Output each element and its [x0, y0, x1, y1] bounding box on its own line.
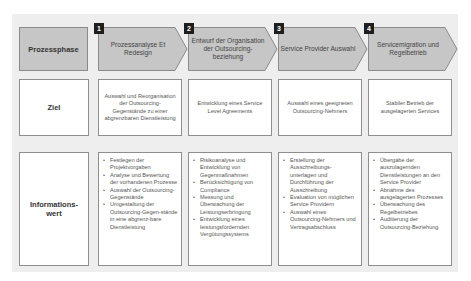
row-label-text: Informations- wert [30, 200, 78, 219]
phase-title: Prozessanalyse Et Redesign [100, 27, 176, 71]
row-label-ziel: Ziel [19, 79, 89, 136]
phase-title: Entwurf der Organisation der Outsourcing… [190, 27, 266, 71]
info-cell-4: Übergabe der auszulagernden Dienstleistu… [368, 152, 452, 266]
phase-arrow-3: Service Provider Auswahl [278, 27, 368, 71]
info-list-item: Risikoanalyse und Entwicklung von Gegenm… [200, 157, 268, 179]
info-list-item: Festlegen der Projektvorgaben [110, 157, 178, 172]
info-list: Risikoanalyse und Entwicklung von Gegenm… [189, 153, 271, 238]
info-list-item: Entwicklung eines leistungsfördernden Ve… [200, 216, 268, 238]
goal-cell-4: Stabiler Betrieb der ausgelagerten Servi… [368, 79, 452, 136]
info-cell-1: Festlegen der Projektvorgaben Analyse un… [98, 152, 182, 266]
phase-title: Servicemigration und Regelbetrieb [370, 27, 446, 71]
phase-arrow-4: Servicemigration und Regelbetrieb [368, 27, 458, 71]
phase-number-badge: 1 [94, 23, 104, 34]
info-list-item: Auswahl der Outsourcing-Gegenstände [110, 187, 178, 202]
goal-text: Auswahl und Reorganisation der Outsourci… [103, 93, 177, 123]
info-list: Festlegen der Projektvorgaben Analyse un… [99, 153, 181, 231]
info-list-item: Berücksichtigung von Compliance [200, 179, 268, 194]
info-list-item: Auditierung der Outsourcing-Beziehung [380, 216, 448, 231]
goal-cell-2: Entwicklung eines Service Level Agreemen… [188, 79, 272, 136]
phase-title: Service Provider Auswahl [280, 27, 356, 71]
phase-arrow-1: Prozessanalyse Et Redesign [98, 27, 188, 71]
info-list-item: Auswahl eines Outsourcing-Nehmers und Ve… [290, 209, 358, 231]
info-list-item: Erstellung der Ausschreibungs-unterlagen… [290, 157, 358, 194]
row-label-informationswert: Informations- wert [19, 152, 89, 266]
phase-arrow-2: Entwurf der Organisation der Outsourcing… [188, 27, 278, 71]
row-label-text: Ziel [48, 103, 61, 113]
phase-number-badge: 4 [364, 23, 374, 34]
phase-number-badge: 2 [184, 23, 194, 34]
row-label-prozessphase: Prozessphase [19, 27, 88, 71]
goal-text: Stabiler Betrieb der ausgelagerten Servi… [373, 100, 447, 115]
info-list-item: Überwachung des Regelbetriebes [380, 201, 448, 216]
info-list: Erstellung der Ausschreibungs-unterlagen… [279, 153, 361, 231]
goal-text: Auswahl eines geeigneten Outsourcing-Neh… [283, 100, 357, 115]
goal-text: Entwicklung eines Service Level Agreemen… [193, 100, 267, 115]
goal-cell-1: Auswahl und Reorganisation der Outsourci… [98, 79, 182, 136]
info-list-item: Übergabe der auszulagernden Dienstleistu… [380, 157, 448, 187]
phase-number-badge: 3 [274, 23, 284, 34]
info-list: Übergabe der auszulagernden Dienstleistu… [369, 153, 451, 231]
info-list-item: Abnahme des ausgelagerten Prozesses [380, 187, 448, 202]
info-list-item: Umgestaltung der Outsourcing-Gegen-ständ… [110, 201, 178, 231]
goal-cell-3: Auswahl eines geeigneten Outsourcing-Neh… [278, 79, 362, 136]
info-list-item: Analyse und Bewertung der vorhandenen Pr… [110, 172, 178, 187]
info-cell-2: Risikoanalyse und Entwicklung von Gegenm… [188, 152, 272, 266]
row-label-text: Prozessphase [28, 45, 78, 54]
info-list-item: Messung und Überwachung der Leistungserb… [200, 194, 268, 216]
info-list-item: Evaluation von möglichen Service Provide… [290, 194, 358, 209]
info-cell-3: Erstellung der Ausschreibungs-unterlagen… [278, 152, 362, 266]
